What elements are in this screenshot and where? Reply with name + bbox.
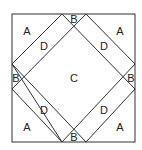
label-C-center: C	[70, 72, 78, 84]
label-D-bottom-left: D	[40, 104, 48, 116]
label-A-top-right: A	[116, 25, 124, 37]
label-B-bottom: B	[70, 131, 77, 143]
label-B-left: B	[12, 72, 19, 84]
diag-line	[86, 89, 135, 142]
label-A-top-left: A	[23, 25, 31, 37]
label-D-top-right: D	[100, 40, 108, 52]
diag-line	[12, 14, 62, 64]
diag-line	[86, 14, 135, 64]
label-D-bottom-right: D	[100, 104, 108, 116]
label-B-right: B	[127, 72, 134, 84]
label-D-top-left: D	[40, 40, 48, 52]
quilt-diagram: A A A A B B B B C D D D D	[0, 0, 142, 150]
label-B-top: B	[70, 13, 77, 25]
diag-line	[12, 89, 62, 142]
label-A-bottom-right: A	[116, 121, 124, 133]
label-A-bottom-left: A	[23, 121, 31, 133]
